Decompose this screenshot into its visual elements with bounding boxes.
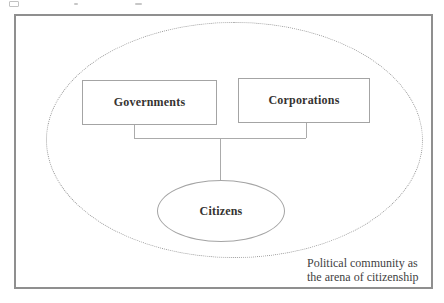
- node-governments: Governments: [82, 80, 217, 125]
- node-corporations: Corporations: [238, 78, 370, 123]
- caption-line-1: Political community as: [307, 256, 432, 270]
- citizens-label: Citizens: [200, 204, 243, 219]
- caption-line-2: the arena of citizenship: [307, 270, 432, 284]
- caption: Political community as the arena of citi…: [307, 256, 432, 284]
- governments-label: Governments: [114, 95, 186, 110]
- node-citizens: Citizens: [157, 180, 285, 242]
- diagram-canvas: Governments Corporations Citizens Politi…: [0, 0, 444, 303]
- corporations-label: Corporations: [268, 93, 339, 108]
